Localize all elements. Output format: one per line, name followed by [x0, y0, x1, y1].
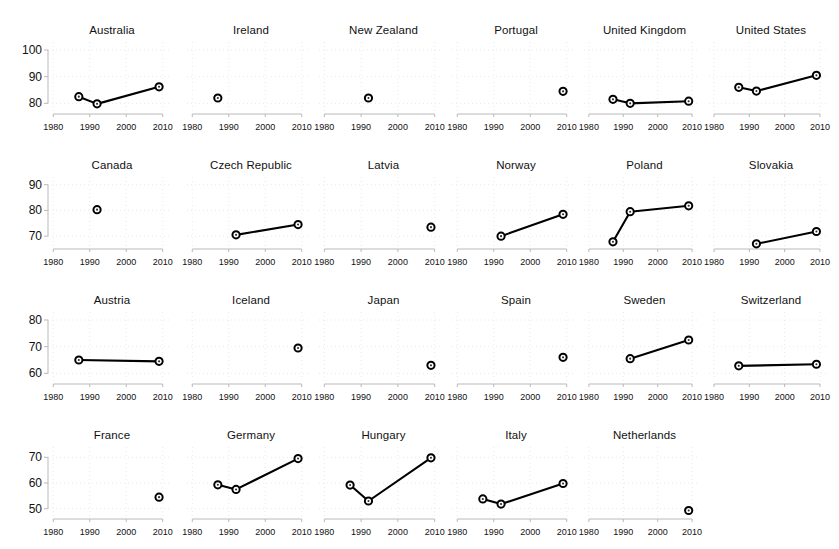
x-tick-label: 2000 — [388, 393, 408, 402]
panel-title: Japan — [317, 294, 450, 306]
x-tick-label: 2010 — [557, 258, 577, 267]
panel-united-kingdom: United Kingdom1980199020002010 — [582, 20, 707, 155]
panel-title: Sweden — [582, 294, 707, 306]
panel-australia: Australia1980199020002010 — [46, 20, 178, 155]
x-tick-label: 2000 — [255, 528, 275, 537]
panel-title: Portugal — [450, 24, 582, 36]
x-tick-label: 2000 — [388, 258, 408, 267]
x-tick-label: 1990 — [613, 393, 633, 402]
panel-united-states: United States1980199020002010 — [707, 20, 835, 155]
series-line — [483, 484, 563, 505]
x-tick-label: 2010 — [292, 528, 312, 537]
panel-title: France — [46, 429, 178, 441]
y-tick-label: 80 — [29, 97, 42, 109]
x-tick-label: 2000 — [520, 528, 540, 537]
panel-title: Ireland — [185, 24, 317, 36]
y-axis-labels: 607080 — [8, 312, 42, 384]
panel-title: Canada — [46, 159, 178, 171]
y-tick-label: 50 — [29, 503, 42, 515]
x-tick-label: 2010 — [557, 393, 577, 402]
panel-ireland: Ireland1980199020002010 — [185, 20, 317, 155]
panel-title: Germany — [185, 429, 317, 441]
x-tick-label: 1990 — [351, 528, 371, 537]
series-line — [739, 364, 817, 366]
x-tick-label: 1990 — [613, 258, 633, 267]
x-tick-label: 1990 — [351, 393, 371, 402]
panel-hungary: Hungary1980199020002010 — [317, 425, 450, 549]
x-tick-label: 1980 — [447, 528, 467, 537]
x-tick-label: 2010 — [153, 123, 173, 132]
x-tick-label: 1990 — [739, 258, 759, 267]
panel-iceland: Iceland1980199020002010 — [185, 290, 317, 425]
y-tick-label: 90 — [29, 179, 42, 191]
x-tick-label: 1990 — [613, 123, 633, 132]
x-tick-label: 2010 — [682, 528, 702, 537]
panel-title: Australia — [46, 24, 178, 36]
x-tick-label: 2010 — [292, 393, 312, 402]
series-line — [613, 99, 689, 103]
x-tick-label: 1980 — [43, 528, 63, 537]
panel-canada: Canada1980199020002010 — [46, 155, 178, 290]
panel-new-zealand: New Zealand1980199020002010 — [317, 20, 450, 155]
x-tick-label: 2010 — [425, 123, 445, 132]
series-line — [756, 232, 816, 244]
series-line — [79, 360, 159, 361]
x-tick-label: 1990 — [484, 258, 504, 267]
series-line — [630, 340, 689, 359]
panel-portugal: Portugal1980199020002010 — [450, 20, 582, 155]
x-tick-label: 1980 — [182, 528, 202, 537]
x-tick-label: 1980 — [182, 393, 202, 402]
x-tick-label: 1980 — [704, 258, 724, 267]
x-tick-label: 1990 — [219, 258, 239, 267]
x-tick-label: 1980 — [704, 393, 724, 402]
y-tick-label: 80 — [29, 204, 42, 216]
panel-title: Slovakia — [707, 159, 835, 171]
panel-title: Czech Republic — [185, 159, 317, 171]
panel-germany: Germany1980199020002010 — [185, 425, 317, 549]
panel-norway: Norway1980199020002010 — [450, 155, 582, 290]
x-tick-label: 1990 — [739, 393, 759, 402]
x-tick-label: 2000 — [775, 258, 795, 267]
x-tick-label: 2000 — [116, 393, 136, 402]
panel-france: France1980199020002010 — [46, 425, 178, 549]
x-tick-label: 1980 — [447, 123, 467, 132]
x-tick-label: 1980 — [43, 393, 63, 402]
x-tick-label: 2000 — [255, 123, 275, 132]
x-tick-label: 1990 — [351, 258, 371, 267]
series-line — [350, 458, 431, 501]
x-tick-label: 2000 — [648, 528, 668, 537]
y-tick-label: 70 — [29, 230, 42, 242]
panel-poland: Poland1980199020002010 — [582, 155, 707, 290]
x-tick-label: 2010 — [682, 258, 702, 267]
x-tick-label: 1980 — [182, 258, 202, 267]
x-tick-label: 2010 — [557, 123, 577, 132]
x-tick-label: 1990 — [484, 528, 504, 537]
x-tick-label: 2010 — [153, 258, 173, 267]
panel-switzerland: Switzerland1980199020002010 — [707, 290, 835, 425]
series-line — [218, 459, 298, 490]
x-tick-label: 1990 — [219, 393, 239, 402]
panel-sweden: Sweden1980199020002010 — [582, 290, 707, 425]
panel-title: Norway — [450, 159, 582, 171]
panel-title: Iceland — [185, 294, 317, 306]
x-tick-label: 2010 — [810, 123, 830, 132]
x-tick-label: 2000 — [388, 123, 408, 132]
x-tick-label: 2010 — [557, 528, 577, 537]
x-tick-label: 2000 — [255, 393, 275, 402]
x-tick-label: 1980 — [43, 258, 63, 267]
x-tick-label: 1990 — [613, 528, 633, 537]
x-tick-label: 1980 — [314, 123, 334, 132]
panel-netherlands: Netherlands1980199020002010 — [582, 425, 707, 549]
x-tick-label: 1990 — [80, 258, 100, 267]
panel-title: United Kingdom — [582, 24, 707, 36]
x-tick-label: 1980 — [447, 258, 467, 267]
x-tick-label: 2010 — [425, 258, 445, 267]
panel-title: Poland — [582, 159, 707, 171]
panel-title: Spain — [450, 294, 582, 306]
x-tick-label: 1980 — [314, 393, 334, 402]
series-line — [236, 225, 298, 235]
y-tick-label: 90 — [29, 71, 42, 83]
x-tick-label: 1990 — [484, 393, 504, 402]
x-tick-label: 2000 — [648, 258, 668, 267]
x-tick-label: 2000 — [116, 528, 136, 537]
